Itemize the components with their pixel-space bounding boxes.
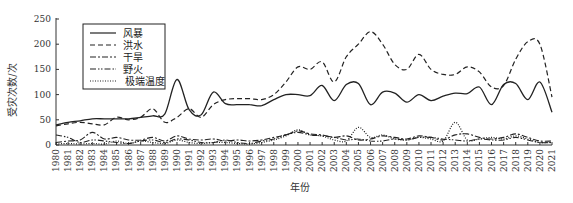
x-axis-title: 年份 xyxy=(290,181,310,193)
y-tick-label: 0 xyxy=(45,140,51,150)
x-tick-label: 1982 xyxy=(75,149,85,172)
x-tick-label: 2020 xyxy=(535,149,545,172)
x-tick-label: 2009 xyxy=(402,149,412,172)
legend-label: 野火 xyxy=(123,64,143,75)
x-tick-label: 2003 xyxy=(329,149,339,172)
x-tick-label: 1997 xyxy=(257,149,267,172)
x-tick-label: 1991 xyxy=(184,149,194,172)
x-tick-label: 2018 xyxy=(511,149,521,172)
x-tick-label: 1989 xyxy=(160,149,170,172)
x-tick-label: 2013 xyxy=(450,149,460,172)
y-axis-title: 受灾次数/次 xyxy=(6,63,18,116)
legend-label: 干旱 xyxy=(123,52,143,63)
x-tick-label: 1999 xyxy=(281,149,291,172)
legend: 风暴洪水干旱野火极端温度 xyxy=(83,24,165,89)
x-tick-label: 1994 xyxy=(220,149,230,172)
y-tick-label: 250 xyxy=(34,14,51,24)
x-tick-label: 1998 xyxy=(269,149,279,172)
x-tick-label: 1984 xyxy=(99,149,109,172)
x-tick-label: 2012 xyxy=(438,149,448,172)
x-tick-label: 1981 xyxy=(63,149,73,172)
x-tick-label: 2004 xyxy=(341,149,351,172)
x-tick-label: 2001 xyxy=(305,149,315,172)
x-tick-label: 2017 xyxy=(499,149,509,172)
y-tick-label: 50 xyxy=(40,115,52,125)
x-tick-label: 1983 xyxy=(87,149,97,172)
x-tick-label: 1993 xyxy=(208,149,218,172)
x-tick-label: 2008 xyxy=(390,149,400,172)
x-tick-label: 2021 xyxy=(547,149,557,172)
x-tick-label: 2016 xyxy=(487,149,497,172)
x-tick-label: 2010 xyxy=(414,149,424,172)
x-axis: 1980198119821983198419851986198719881989… xyxy=(51,142,557,172)
series-line-4 xyxy=(56,122,552,144)
x-tick-label: 2015 xyxy=(474,149,484,172)
x-tick-label: 1985 xyxy=(111,149,121,172)
x-tick-label: 2011 xyxy=(426,149,436,172)
x-tick-label: 1988 xyxy=(148,149,158,172)
x-tick-label: 1992 xyxy=(196,149,206,172)
x-tick-label: 1990 xyxy=(172,149,182,172)
x-tick-label: 2007 xyxy=(378,149,388,172)
disaster-line-chart: 050100150200250 198019811982198319841985… xyxy=(0,0,573,203)
x-tick-label: 2005 xyxy=(353,149,363,172)
series-line-3 xyxy=(56,132,552,143)
legend-label: 极端温度 xyxy=(125,75,165,87)
x-tick-label: 2019 xyxy=(523,149,533,172)
legend-label: 洪水 xyxy=(123,40,143,51)
x-tick-label: 1986 xyxy=(124,149,134,172)
x-tick-label: 1987 xyxy=(136,149,146,172)
y-tick-label: 100 xyxy=(34,90,51,100)
y-axis: 050100150200250 xyxy=(34,14,59,150)
x-tick-label: 2014 xyxy=(462,149,472,172)
x-tick-label: 2006 xyxy=(366,149,376,172)
x-tick-label: 1996 xyxy=(245,149,255,172)
x-tick-label: 2002 xyxy=(317,149,327,172)
x-tick-label: 1980 xyxy=(51,149,61,172)
x-tick-label: 2000 xyxy=(293,149,303,172)
legend-label: 风暴 xyxy=(123,28,143,39)
y-tick-label: 150 xyxy=(34,64,51,74)
y-tick-label: 200 xyxy=(34,39,51,49)
x-tick-label: 1995 xyxy=(232,149,242,172)
